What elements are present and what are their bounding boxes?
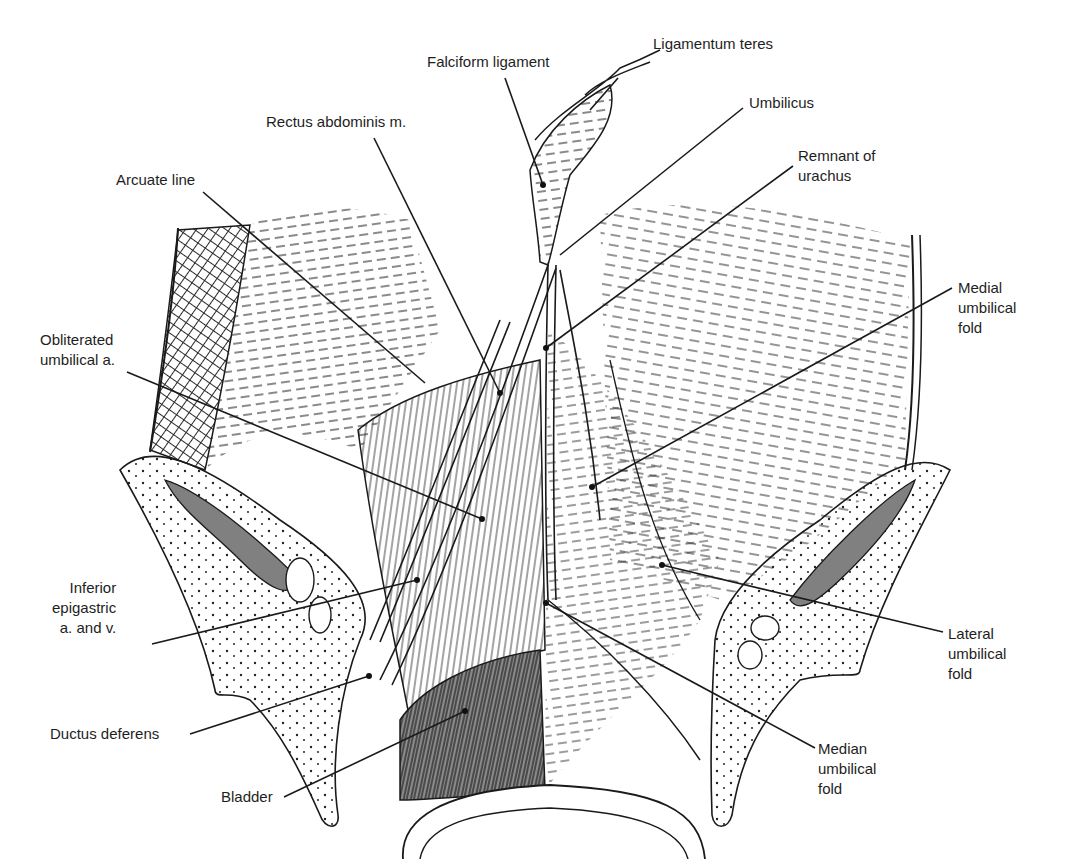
label-medial-umbilical-fold: Medialumbilicalfold [958, 278, 1016, 338]
label-line: Remnant of [798, 146, 876, 166]
label-ligamentum-teres: Ligamentum teres [653, 34, 773, 54]
label-line: Medial [958, 278, 1016, 298]
label-line: umbilical [818, 759, 876, 779]
label-arcuate-line: Arcuate line [116, 170, 195, 190]
label-ductus-deferens: Ductus deferens [50, 724, 159, 744]
label-line: Falciform ligament [427, 52, 550, 72]
label-line: Inferior [52, 578, 116, 598]
label-line: a. and v. [52, 618, 116, 638]
label-line: umbilical [958, 298, 1016, 318]
left-pelvic-bone [120, 456, 365, 826]
label-obliterated-umbilical-a: Obliteratedumbilical a. [40, 330, 115, 370]
label-remnant-of-urachus: Remnant ofurachus [798, 146, 876, 186]
rectus-abdominis-muscle [358, 360, 545, 800]
label-median-umbilical-fold: Medianumbilicalfold [818, 739, 876, 799]
label-line: fold [818, 779, 876, 799]
label-line: fold [948, 664, 1006, 684]
label-lateral-umbilical-fold: Lateralumbilicalfold [948, 624, 1006, 684]
anatomy-illustration [0, 0, 1068, 859]
label-rectus-abdominis: Rectus abdominis m. [266, 112, 406, 132]
label-line: Umbilicus [749, 93, 814, 113]
label-line: Arcuate line [116, 170, 195, 190]
label-line: Median [818, 739, 876, 759]
label-umbilicus: Umbilicus [749, 93, 814, 113]
label-line: fold [958, 318, 1016, 338]
label-line: umbilical a. [40, 350, 115, 370]
label-line: Lateral [948, 624, 1006, 644]
label-line: Ductus deferens [50, 724, 159, 744]
label-line: Bladder [221, 787, 273, 807]
label-line: Obliterated [40, 330, 115, 350]
label-inferior-epigastric: Inferiorepigastrica. and v. [52, 578, 116, 638]
label-line: Rectus abdominis m. [266, 112, 406, 132]
label-line: epigastric [52, 598, 116, 618]
label-bladder: Bladder [221, 787, 273, 807]
label-line: urachus [798, 166, 876, 186]
label-line: umbilical [948, 644, 1006, 664]
label-line: Ligamentum teres [653, 34, 773, 54]
label-falciform-ligament: Falciform ligament [427, 52, 550, 72]
